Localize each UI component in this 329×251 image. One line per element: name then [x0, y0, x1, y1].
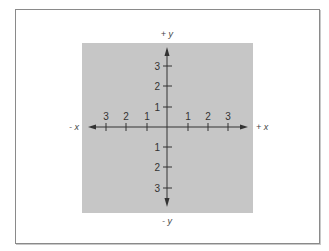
y-tick-label: 2	[154, 81, 160, 92]
pos-x-label: + x	[256, 122, 269, 132]
y-tick-label: 1	[154, 102, 160, 113]
x-tick-label: 2	[205, 111, 211, 122]
pos-y-label: + y	[161, 29, 174, 39]
x-tick-label: 2	[123, 111, 129, 122]
neg-y-label: - y	[162, 216, 172, 226]
x-tick-label: 3	[103, 111, 109, 122]
y-tick-label: 2	[154, 162, 160, 173]
y-tick-label: 1	[154, 142, 160, 153]
neg-x-label: - x	[69, 122, 79, 132]
y-tick-label: 3	[154, 183, 160, 194]
y-tick-label: 3	[154, 61, 160, 72]
x-tick-label: 3	[225, 111, 231, 122]
x-tick-label: 1	[144, 111, 150, 122]
coordinate-diagram: 3 2 1 1 2 3 3 2 1 1 2 3 + y - y + x - x	[0, 0, 329, 251]
x-tick-label: 1	[185, 111, 191, 122]
